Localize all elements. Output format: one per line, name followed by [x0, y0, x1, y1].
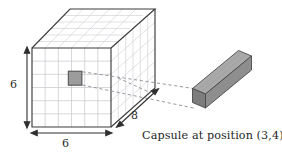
highlighted-cell — [68, 71, 82, 85]
width-dimension-arrow — [31, 130, 112, 135]
depth-label: 8 — [131, 110, 138, 121]
height-dimension-arrow — [24, 47, 29, 128]
capsule-caption: Capsule at position (3,4) — [142, 129, 282, 142]
cube-front-face — [32, 48, 111, 127]
width-label: 6 — [62, 138, 69, 149]
capsule-object — [193, 51, 252, 109]
height-label: 6 — [10, 79, 17, 90]
